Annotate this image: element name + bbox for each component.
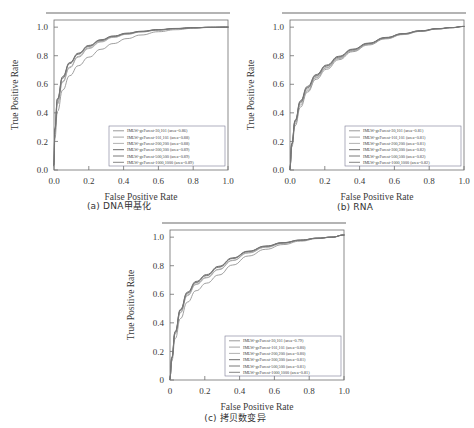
y-tick-label: 1.0 (37, 22, 49, 32)
panel-caption-a: (a) DNA甲基化 (2, 199, 236, 212)
panel-caption-c: (c) 拷贝数变异 (118, 411, 352, 424)
y-tick-label: 0.2 (37, 137, 48, 147)
x-tick-label: 0 (168, 386, 173, 396)
panel-caption-b: (b) RNA (238, 202, 472, 212)
panel-copy-number-variation: 00.20.40.60.81.000.20.40.60.81.0False Po… (118, 216, 352, 424)
y-axis-title: True Positive Rate (126, 270, 136, 340)
y-tick-label: 0.0 (273, 165, 285, 175)
panel-dna-methylation: 0.00.20.40.60.81.00.00.20.40.60.81.0Fals… (2, 6, 236, 212)
x-axis-title: False Positive Rate (341, 192, 414, 202)
x-tick-label: 0.2 (83, 176, 94, 186)
roc-plot-c: 00.20.40.60.81.000.20.40.60.81.0False Po… (118, 216, 352, 412)
y-tick-label: 0.6 (273, 79, 285, 89)
y-tick-label: 0.8 (273, 51, 285, 61)
roc-plot-b: 0.00.20.40.60.81.00.00.20.40.60.81.0Fals… (238, 6, 472, 202)
x-tick-label: 0.4 (118, 176, 130, 186)
x-tick-label: 0.4 (234, 386, 246, 396)
y-axis-title: True Positive Rate (10, 60, 20, 130)
roc-figure: 0.00.20.40.60.81.00.00.20.40.60.81.0Fals… (0, 0, 474, 428)
x-tick-label: 0.8 (424, 176, 436, 186)
x-tick-label: 1.0 (222, 176, 234, 186)
x-tick-label: 0.2 (319, 176, 330, 186)
y-tick-label: 0.6 (153, 289, 165, 299)
x-tick-label: 0.2 (199, 386, 210, 396)
y-tick-label: 0.4 (37, 108, 49, 118)
y-tick-label: 0.4 (273, 108, 285, 118)
y-tick-label: 0.0 (37, 165, 49, 175)
y-tick-label: 0.6 (37, 79, 49, 89)
x-tick-label: 1.0 (458, 176, 470, 186)
y-tick-label: 1.0 (153, 232, 165, 242)
x-tick-label: 0.4 (354, 176, 366, 186)
y-axis-title: True Positive Rate (246, 60, 256, 130)
y-tick-label: 0.2 (273, 137, 284, 147)
y-tick-label: 1.0 (273, 22, 285, 32)
y-tick-label: 0 (160, 375, 165, 385)
x-tick-label: 0.8 (304, 386, 316, 396)
x-tick-label: 0.8 (188, 176, 200, 186)
x-tick-label: 0.6 (389, 176, 401, 186)
x-tick-label: 1.0 (338, 386, 350, 396)
x-tick-label: 0.6 (269, 386, 281, 396)
x-tick-label: 0.0 (284, 176, 296, 186)
panel-rna: 0.00.20.40.60.81.00.00.20.40.60.81.0Fals… (238, 6, 472, 212)
y-tick-label: 0.8 (153, 261, 165, 271)
y-tick-label: 0.2 (153, 347, 164, 357)
x-tick-label: 0.6 (153, 176, 165, 186)
roc-plot-a: 0.00.20.40.60.81.00.00.20.40.60.81.0Fals… (2, 6, 236, 202)
y-tick-label: 0.8 (37, 51, 49, 61)
y-tick-label: 0.4 (153, 318, 165, 328)
x-tick-label: 0.0 (48, 176, 60, 186)
